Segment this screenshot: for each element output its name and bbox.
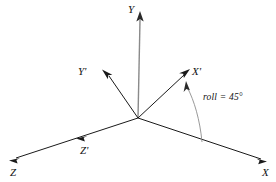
roll-angle-arc	[184, 81, 202, 142]
axis-label-y-prime: Y'	[78, 66, 86, 77]
arrowhead-x-icon	[256, 159, 267, 165]
axis-line-x-prime	[138, 69, 190, 118]
axis-label-y: Y	[128, 4, 134, 15]
axis-line-z	[9, 118, 138, 164]
arrowhead-y-icon	[136, 11, 143, 22]
arrowhead-x-prime-icon	[179, 69, 190, 78]
roll-angle-label: roll = 45°	[203, 93, 243, 103]
axes-drawing	[0, 0, 276, 182]
axis-label-z-prime: Z'	[80, 145, 88, 156]
arrowhead-z-icon	[9, 158, 20, 164]
axis-line-y-prime	[102, 70, 138, 119]
axis-label-x-prime: X'	[192, 66, 201, 77]
axis-label-z: Z	[10, 167, 16, 178]
axis-line-x	[138, 118, 267, 164]
axis-line-y	[136, 11, 143, 118]
axes-diagram: Y X Z X' Y' Z' roll = 45°	[0, 0, 276, 182]
axis-label-x: X	[262, 167, 269, 178]
